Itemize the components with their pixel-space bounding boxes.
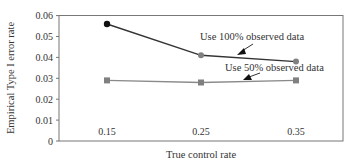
y-tick-label: 0.01 [36,115,54,126]
x-tick-labels: 0.15 0.25 0.35 [98,126,305,137]
x-axis-title: True control rate [166,149,237,160]
y-tick-label: 0.05 [36,31,54,42]
y-tick-label: 0.03 [36,73,54,84]
annotation-100-percent: Use 100% observed data [200,31,304,42]
series-100-percent [104,21,299,65]
data-point-circle [104,21,110,27]
data-point-circle [198,52,204,58]
y-tick-labels: 0 0.01 0.02 0.03 0.04 0.05 0.06 [36,10,54,146]
y-tick-label: 0.02 [36,94,54,105]
series-50-percent [104,77,299,85]
arrowhead-icon [243,74,252,80]
y-axis-title: Empirical Type I error rate [5,22,16,135]
y-tick-label: 0 [48,136,53,147]
data-point-square [198,80,204,86]
data-point-square [104,77,110,83]
x-tick-label: 0.25 [192,126,210,137]
y-tick-label: 0.04 [36,52,54,63]
annotation-arrow-line [249,73,260,77]
annotation-50-percent: Use 50% observed data [225,62,324,73]
x-tick-label: 0.15 [98,126,116,137]
x-tick-label: 0.35 [287,126,305,137]
data-point-square [293,77,299,83]
line-chart: 0 0.01 0.02 0.03 0.04 0.05 0.06 Empirica… [0,0,361,162]
y-tick-label: 0.06 [36,10,54,21]
